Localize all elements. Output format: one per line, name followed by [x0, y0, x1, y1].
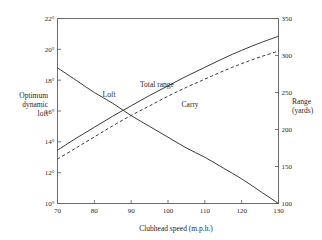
y-axis-right-tick-label: 350 — [282, 15, 293, 23]
x-axis-tick-label: 120 — [236, 207, 247, 215]
x-axis-tick-label: 70 — [54, 207, 62, 215]
x-axis-title: Clubhead speed (m.p.h.) — [139, 224, 213, 233]
y-axis-right-ticks: 100150200250300350 — [275, 15, 293, 208]
y-axis-right-tick-label: 150 — [282, 163, 293, 171]
y-axis-right-tick-label: 200 — [282, 126, 293, 134]
y-axis-left-tick-label: 12° — [45, 169, 55, 177]
series-curve-total-range — [58, 36, 279, 150]
y-axis-left-tick-label: 20° — [45, 46, 55, 54]
plot-frame — [58, 19, 279, 204]
y-axis-left-title-line1: Optimum — [19, 91, 48, 100]
series-label-carry: Carry — [182, 100, 199, 109]
y-axis-right-title-line2: (yards) — [292, 106, 314, 115]
chart-figure: 10°12°14°16°18°20°22° 100150200250300350… — [0, 0, 322, 240]
y-axis-left-title-line3: loft — [38, 109, 49, 118]
y-axis-left-title-line2: dynamic — [22, 100, 48, 109]
y-axis-right-tick-label: 300 — [282, 52, 293, 60]
series-labels-group: LoftTotal rangeCarry — [103, 80, 199, 109]
x-axis-tick-label: 130 — [273, 207, 284, 215]
x-axis-tick-label: 100 — [163, 207, 174, 215]
series-curve-carry — [58, 51, 279, 159]
x-axis-tick-label: 90 — [128, 207, 136, 215]
x-axis-tick-label: 110 — [200, 207, 211, 215]
y-axis-left-tick-label: 18° — [45, 77, 55, 85]
y-axis-left-tick-label: 22° — [45, 15, 55, 23]
x-axis-ticks: 708090100110120130 — [54, 200, 284, 215]
chart-series-group — [58, 36, 279, 203]
y-axis-right-title-line1: Range — [292, 97, 312, 106]
x-axis-tick-label: 80 — [91, 207, 99, 215]
series-label-total-range: Total range — [140, 80, 175, 89]
chart-svg: 10°12°14°16°18°20°22° 100150200250300350… — [0, 0, 322, 240]
series-label-loft: Loft — [103, 90, 117, 99]
y-axis-right-tick-label: 250 — [282, 89, 293, 97]
y-axis-left-tick-label: 14° — [45, 138, 55, 146]
